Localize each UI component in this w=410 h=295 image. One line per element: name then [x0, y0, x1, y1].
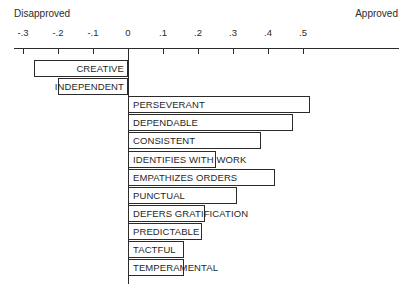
axis-right-endpoint-label: Approved: [355, 8, 398, 19]
bar-label: CONSISTENT: [133, 132, 195, 149]
axis-tick-label: -.2: [52, 27, 63, 38]
axis-tick-label: -.3: [17, 27, 28, 38]
x-axis-line: [14, 48, 399, 49]
axis-tick: [58, 48, 59, 54]
bar-label: INDEPENDENT: [55, 78, 124, 95]
axis-tick-label: 0: [125, 27, 130, 38]
axis-tick-label: .5: [299, 27, 307, 38]
axis-tick: [303, 48, 304, 54]
axis-tick-label: .4: [264, 27, 272, 38]
bar-label: CREATIVE: [76, 60, 124, 77]
bar-label: EMPATHIZES ORDERS: [133, 169, 237, 186]
bar-label: IDENTIFIES WITH WORK: [133, 151, 246, 168]
axis-left-endpoint-label: Disapproved: [14, 8, 70, 19]
bar-label: TEMPERAMENTAL: [133, 259, 218, 276]
bar-label: PUNCTUAL: [133, 187, 185, 204]
bar-label: PERSEVERANT: [133, 96, 205, 113]
bar-label: DEPENDABLE: [133, 114, 198, 131]
axis-tick-label: .3: [229, 27, 237, 38]
bar-label: PREDICTABLE: [133, 223, 199, 240]
axis-tick: [93, 48, 94, 54]
axis-tick: [163, 48, 164, 54]
axis-tick-label: .2: [194, 27, 202, 38]
bar-label: DEFERS GRATIFICATION: [133, 205, 248, 222]
coefficient-bar-chart: Disapproved Approved -.3-.2-.10.1.2.3.4.…: [0, 0, 410, 295]
axis-tick-label: .1: [159, 27, 167, 38]
axis-tick: [268, 48, 269, 54]
axis-tick-label: -.1: [87, 27, 98, 38]
axis-tick: [233, 48, 234, 54]
axis-tick: [23, 48, 24, 54]
bar-label: TACTFUL: [133, 241, 176, 258]
axis-tick: [198, 48, 199, 54]
